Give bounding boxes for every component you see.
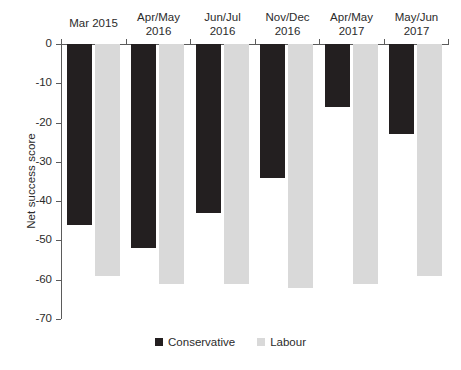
- legend-swatch-conservative-icon: [155, 338, 163, 346]
- x-axis-tick: [190, 39, 191, 45]
- bar-conservative-3: [260, 44, 285, 178]
- bar-conservative-0: [67, 44, 92, 225]
- x-axis-tick: [61, 39, 62, 45]
- bar-chart: Net success score 0-10-20-30-40-50-60-70…: [0, 0, 461, 370]
- chart-legend: Conservative Labour: [0, 336, 461, 348]
- x-axis-tick: [255, 39, 256, 45]
- bar-labour-4: [353, 44, 378, 284]
- y-axis-tick: [56, 123, 61, 124]
- bar-labour-5: [417, 44, 442, 276]
- legend-swatch-labour-icon: [257, 338, 265, 346]
- y-axis-tick-label: -60: [8, 274, 52, 286]
- bar-conservative-5: [389, 44, 414, 134]
- y-axis-tick: [56, 83, 61, 84]
- y-axis-tick-label: -50: [8, 234, 52, 246]
- y-axis-line: [61, 44, 62, 319]
- legend-label-conservative: Conservative: [168, 336, 235, 348]
- x-axis-tick: [448, 39, 449, 45]
- y-axis-tick-label: -10: [8, 77, 52, 89]
- legend-item-conservative[interactable]: Conservative: [155, 336, 235, 348]
- x-axis-category-label: Nov/Dec 2016: [255, 11, 320, 38]
- x-axis-category-label: Apr/May 2016: [126, 11, 191, 38]
- y-axis-tick-label: -30: [8, 156, 52, 168]
- y-axis-tick: [56, 162, 61, 163]
- x-axis-category-label: Mar 2015: [61, 17, 126, 31]
- x-axis-tick: [126, 39, 127, 45]
- legend-item-labour[interactable]: Labour: [257, 336, 306, 348]
- x-axis-category-label: May/Jun 2017: [384, 11, 449, 38]
- bar-conservative-1: [131, 44, 156, 248]
- bar-conservative-4: [325, 44, 350, 107]
- y-axis-tick-label: -20: [8, 117, 52, 129]
- y-axis-tick: [56, 319, 61, 320]
- bar-labour-2: [224, 44, 249, 284]
- bar-labour-1: [159, 44, 184, 284]
- bar-labour-3: [288, 44, 313, 288]
- y-axis-tick: [56, 280, 61, 281]
- x-axis-tick: [319, 39, 320, 45]
- y-axis-tick-label: -40: [8, 195, 52, 207]
- y-axis-tick-label: -70: [8, 313, 52, 325]
- legend-label-labour: Labour: [270, 336, 306, 348]
- x-axis-category-label: Jun/Jul 2016: [190, 11, 255, 38]
- x-axis-tick: [384, 39, 385, 45]
- x-axis-category-label: Apr/May 2017: [319, 11, 384, 38]
- y-axis-tick: [56, 201, 61, 202]
- bar-labour-0: [95, 44, 120, 276]
- y-axis-tick-label: 0: [8, 38, 52, 50]
- y-axis-tick: [56, 240, 61, 241]
- bar-conservative-2: [196, 44, 221, 213]
